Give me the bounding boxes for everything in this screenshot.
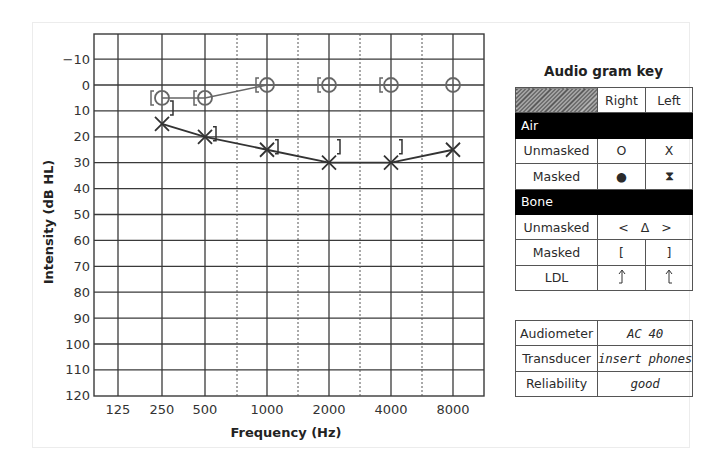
y-tick-label: 10 [73, 103, 90, 118]
key-row: Unmasked < Δ > [516, 214, 693, 239]
y-tick-label: 40 [73, 181, 90, 196]
y-tick-label: 110 [65, 362, 90, 377]
info-label: Audiometer [516, 321, 598, 346]
key-row: Masked ● ⧗ [516, 164, 693, 189]
y-tick-label: 120 [65, 388, 90, 403]
x-tick-label: 500 [193, 402, 218, 417]
row-label: Unmasked [516, 214, 598, 239]
y-axis-ticks: −100102030405060708090100110120 [63, 52, 90, 404]
left-bracket-marker-icon [151, 91, 154, 105]
x-tick-label: 2000 [312, 402, 345, 417]
circle-symbol-icon: O [598, 138, 646, 163]
y-tick-label: 0 [82, 78, 90, 93]
left-bracket-icon: [ [598, 240, 646, 265]
info-value: insert phones [598, 346, 693, 371]
y-tick-label: 20 [73, 129, 90, 144]
y-tick-label: 90 [73, 311, 90, 326]
row-label: Masked [516, 164, 598, 189]
chart-grid [94, 34, 484, 396]
right-bracket-marker-icon [399, 140, 402, 154]
test-info-table: Audiometer AC 40 Transducer insert phone… [515, 320, 693, 397]
row-label: Masked [516, 240, 598, 265]
key-row: Unmasked O X [516, 138, 693, 163]
x-symbol-icon: X [646, 138, 693, 163]
y-tick-label: 50 [73, 207, 90, 222]
row-label: Unmasked [516, 138, 598, 163]
y-axis-label: Intensity (dB HL) [41, 160, 56, 285]
x-tick-label: 250 [150, 402, 175, 417]
ldl-right-arrow-icon [598, 265, 646, 290]
section-air: Air [516, 113, 693, 138]
right-bracket-icon: ] [646, 240, 693, 265]
info-label: Transducer [516, 346, 598, 371]
ldl-left-arrow-icon [646, 265, 693, 290]
x-axis-ticks: 1252505001000200040008000 [106, 402, 470, 417]
info-row: Audiometer AC 40 [516, 321, 693, 346]
right-bracket-marker-icon [337, 140, 340, 154]
header-right: Right [598, 88, 646, 113]
y-tick-label: −10 [63, 52, 90, 67]
filled-circle-icon: ● [598, 164, 646, 189]
key-row: LDL [516, 265, 693, 290]
x-axis-label: Frequency (Hz) [231, 425, 342, 440]
bone-unmasked-symbols-icon: < Δ > [598, 214, 693, 239]
info-value: AC 40 [598, 321, 693, 346]
y-tick-label: 70 [73, 259, 90, 274]
key-header-row: Right Left [516, 88, 693, 113]
chart-series [151, 78, 460, 170]
key-title: Audio gram key [515, 63, 692, 79]
info-value: good [598, 371, 693, 396]
y-tick-label: 100 [65, 337, 90, 352]
section-bone: Bone [516, 189, 693, 214]
info-row: Reliability good [516, 371, 693, 396]
y-tick-label: 80 [73, 285, 90, 300]
x-tick-label: 1000 [250, 402, 283, 417]
key-row: Masked [ ] [516, 240, 693, 265]
row-label: LDL [516, 265, 598, 290]
header-left: Left [646, 88, 693, 113]
right-bracket-marker-icon [170, 101, 173, 115]
x-tick-label: 125 [106, 402, 131, 417]
y-tick-label: 60 [73, 233, 90, 248]
info-row: Transducer insert phones [516, 346, 693, 371]
x-tick-label: 4000 [374, 402, 407, 417]
info-label: Reliability [516, 371, 598, 396]
y-tick-label: 30 [73, 155, 90, 170]
x-tick-label: 8000 [436, 402, 469, 417]
hatched-corner [516, 88, 598, 113]
hourglass-icon: ⧗ [646, 164, 693, 189]
audiogram-key-table: Right Left Air Unmasked O X Masked ● ⧗ B… [515, 87, 693, 291]
